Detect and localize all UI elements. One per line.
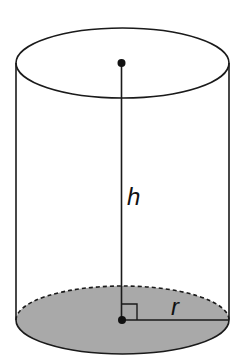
height-label: h (127, 183, 140, 210)
bottom-center-point (118, 316, 126, 324)
cylinder-diagram: h r (0, 0, 246, 362)
top-center-point (118, 59, 126, 67)
radius-label: r (171, 293, 180, 320)
